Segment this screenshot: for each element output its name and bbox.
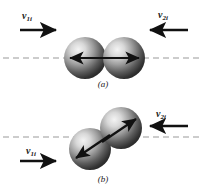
velocity-subscript: 2i [160,113,165,121]
velocity-label-v1i-b: v1i [26,146,36,158]
panel-b-glancing-collision: v1i v2i (b) [0,96,206,192]
velocity-label-v1i-a: v1i [22,11,32,23]
velocity-label-v2i-a: v2i [158,10,168,22]
velocity-subscript: 1i [30,150,35,158]
panel-caption-b: (b) [0,175,206,184]
velocity-subscript: 2i [162,14,167,22]
velocity-subscript: 1i [26,15,31,23]
panel-caption-a: (a) [0,80,206,89]
collision-figure: v1i v2i (a) [0,0,206,192]
velocity-label-v2i-b: v2i [156,109,166,121]
panel-a-head-on-collision: v1i v2i (a) [0,0,206,96]
